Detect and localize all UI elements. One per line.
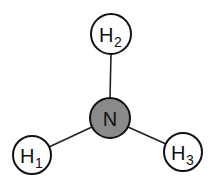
atom-n-element: N [103, 108, 117, 130]
atom-h2: H 2 [91, 14, 131, 54]
bond-n-h3 [128, 127, 166, 144]
atom-n: N [90, 98, 130, 138]
atom-h1-element: H [20, 145, 34, 167]
atom-h1-subscript: 1 [35, 155, 43, 171]
bond-n-h2 [110, 54, 111, 98]
bond-n-h1 [49, 127, 92, 147]
atom-h2-subscript: 2 [114, 34, 122, 50]
atom-h1: H 1 [13, 136, 51, 174]
ammonia-molecule-diagram: H 2 N H 1 H 3 [0, 0, 217, 185]
atom-h2-element: H [99, 24, 113, 46]
atom-h3-element: H [171, 142, 185, 164]
atom-h3: H 3 [164, 133, 202, 171]
atom-h3-subscript: 3 [186, 152, 194, 168]
